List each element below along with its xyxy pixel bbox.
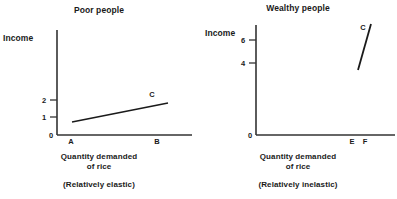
x-point-label-a: A <box>68 137 74 146</box>
x-axis-caption-line2: of rice <box>0 162 198 172</box>
y-tick-label-6: 6 <box>241 36 245 45</box>
y-tick-label-2: 2 <box>42 96 46 105</box>
demand-curve-c <box>72 103 168 122</box>
chart-panel-wealthy-people: Wealthy people Income 6 4 0 E F C Quanti… <box>199 0 397 199</box>
x-point-label-e: E <box>349 137 354 146</box>
elasticity-caption-wealthy-people: (Relatively inelastic) <box>199 180 397 190</box>
x-axis-caption-line1: Quantity demanded <box>0 152 198 162</box>
x-axis-caption-poor-people: Quantity demanded of rice <box>0 152 198 172</box>
x-axis-caption-line2: of rice <box>199 162 397 172</box>
y-tick-label-1: 1 <box>42 113 46 122</box>
y-tick-label-0: 0 <box>49 131 53 140</box>
curve-label-c: C <box>149 90 155 99</box>
chart-panel-poor-people: Poor people Income 2 1 0 A B C Quantity … <box>0 0 198 199</box>
elasticity-caption-poor-people: (Relatively elastic) <box>0 180 198 190</box>
x-point-label-b: B <box>154 137 160 146</box>
y-tick-label-4: 4 <box>241 59 246 68</box>
x-axis-caption-wealthy-people: Quantity demanded of rice <box>199 152 397 172</box>
curve-label-c: C <box>360 23 366 32</box>
x-point-label-f: F <box>363 137 368 146</box>
y-tick-label-0: 0 <box>248 131 252 140</box>
x-axis-caption-line1: Quantity demanded <box>199 152 397 162</box>
